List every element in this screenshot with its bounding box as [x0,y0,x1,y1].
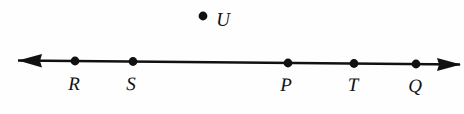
point-dot-u [199,12,208,21]
geometry-figure: RSPTQU [0,0,464,114]
line-group [18,54,461,71]
point-dot-r [71,57,80,66]
point-label-p: P [280,76,292,95]
point-dot-q [412,60,421,69]
point-label-q: Q [408,77,422,96]
point-label-s: S [126,75,136,94]
point-dot-s [129,57,138,66]
point-label-u: U [216,10,230,29]
number-line-canvas [0,0,464,114]
left-arrowhead-icon [18,54,42,68]
point-label-r: R [68,75,80,94]
point-dot-t [350,59,359,68]
point-dot-p [284,59,293,68]
number-line-segment [18,61,460,65]
point-label-t: T [348,76,359,95]
right-arrowhead-icon [437,58,461,71]
point-dot-group [71,12,421,69]
